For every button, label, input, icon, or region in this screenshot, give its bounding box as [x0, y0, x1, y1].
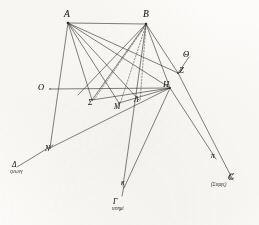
point-label-H: H [163, 80, 169, 89]
segment-AB [68, 23, 146, 24]
point-label-lambda: Λ [134, 96, 139, 104]
vertex-dot-H [169, 87, 171, 89]
segment-B-O [78, 24, 146, 95]
point-label-O: O [38, 83, 44, 92]
point-label-theta: Θ [183, 50, 189, 59]
annotation-gamma: Γ ιεσημί [112, 198, 123, 211]
figure-canvas: A B Θ Z H O Σ M Λ N κ π C Δ ςιεωνγ Γ ιεσ… [0, 0, 259, 225]
point-label-A: A [64, 10, 70, 20]
vertex-dot-B [145, 23, 148, 26]
annotation-sigma-c-sub: (Σιεμγς) [211, 182, 226, 187]
point-label-M: M [114, 103, 120, 111]
dashed-B-Lambda [140, 25, 146, 101]
point-label-kappa: κ [121, 179, 125, 187]
segment-H-pi [170, 88, 216, 159]
point-label-Z: Z [179, 66, 184, 75]
annotation-gamma-head: Γ [113, 198, 117, 206]
annotation-delta-sub: ςιεωνγ [10, 169, 22, 174]
point-label-B: B [143, 10, 149, 20]
segment-A-M [68, 23, 119, 103]
segment-kappa-gamma [122, 186, 124, 196]
dashed-B-Sigma [93, 25, 146, 101]
geometric-diagram-svg [0, 0, 259, 225]
point-label-N: N [45, 145, 50, 153]
vertex-dot-O [49, 88, 50, 89]
segment-B-kappa [123, 24, 146, 186]
annotation-sigma-c-head: C [228, 174, 233, 182]
point-label-pi: π [211, 152, 215, 160]
vertex-dot-A [67, 22, 70, 25]
segment-A-N [50, 23, 68, 148]
annotation-sigma-c: C (Σιεμγς) [211, 174, 226, 187]
solid-line-group [17, 23, 233, 196]
segment-H-kappa [124, 88, 170, 188]
vertex-dot-group [49, 22, 179, 149]
annotation-delta: Δ ςιεωνγ [10, 161, 22, 174]
segment-Z-C [178, 73, 233, 180]
dashed-line-group [93, 25, 146, 104]
annotation-delta-head: Δ [12, 161, 16, 169]
point-label-sigma: Σ [88, 99, 92, 107]
annotation-gamma-sub: ιεσημί [112, 206, 123, 211]
